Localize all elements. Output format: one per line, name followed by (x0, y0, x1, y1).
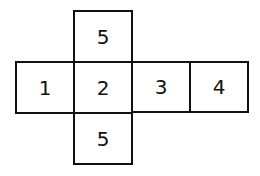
face-right: 3 (131, 61, 191, 113)
face-center: 2 (73, 61, 133, 114)
face-far-right: 4 (189, 61, 249, 113)
face-left: 1 (15, 61, 75, 114)
face-bottom: 5 (73, 112, 133, 165)
face-top: 5 (73, 10, 133, 63)
